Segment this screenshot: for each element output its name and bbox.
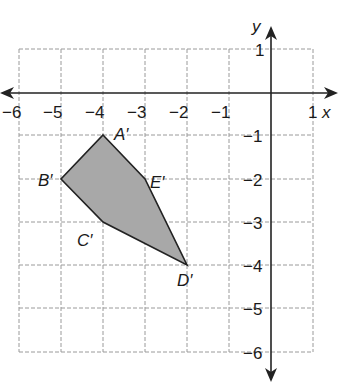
vertex-label-c: C′ (77, 231, 93, 250)
x-tick-labels: −6 −5 −4 −3 −2 −1 1 (2, 103, 317, 122)
svg-text:−6: −6 (243, 344, 262, 363)
vertex-label-d: D′ (177, 271, 193, 290)
svg-text:−4: −4 (243, 257, 262, 276)
coordinate-plane: y x −6 −5 −4 −3 −2 −1 1 1 −1 −2 −3 −4 −5… (0, 0, 344, 386)
svg-text:−2: −2 (243, 171, 262, 190)
svg-text:−2: −2 (169, 103, 188, 122)
x-axis-label: x (321, 103, 331, 122)
svg-text:−4: −4 (85, 103, 104, 122)
svg-text:−5: −5 (43, 103, 62, 122)
svg-text:−3: −3 (127, 103, 146, 122)
svg-text:1: 1 (308, 103, 317, 122)
vertex-label-e: E′ (150, 173, 165, 192)
y-tick-labels: 1 −1 −2 −3 −4 −5 −6 (243, 41, 264, 363)
svg-text:−1: −1 (243, 127, 262, 146)
svg-text:−3: −3 (243, 214, 262, 233)
vertex-label-a: A′ (113, 125, 129, 144)
svg-text:−6: −6 (2, 103, 21, 122)
svg-text:1: 1 (255, 41, 264, 60)
grid (19, 49, 313, 352)
svg-text:−1: −1 (211, 103, 230, 122)
svg-text:−5: −5 (243, 300, 262, 319)
y-axis-label: y (251, 17, 262, 36)
vertex-label-b: B′ (38, 171, 53, 190)
